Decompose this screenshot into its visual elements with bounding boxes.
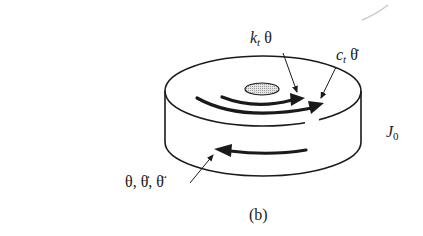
damping-label: ct θ̇ [336, 47, 358, 63]
stiffness-subscript: t [257, 36, 260, 48]
disk [165, 56, 361, 176]
motion-leader-line [190, 155, 213, 183]
damping-variable: θ̇ [350, 46, 358, 63]
scan-artifact [362, 5, 388, 20]
disk-bottom-edge [165, 142, 361, 176]
inertia-label: J0 [386, 124, 399, 140]
figure-caption: (b) [249, 207, 268, 223]
stiffness-leader-line [283, 53, 297, 92]
hub-shaft [245, 83, 279, 95]
torsional-disk-diagram [0, 0, 423, 236]
damping-leader-line [321, 67, 336, 98]
motion-arrow [214, 144, 306, 157]
damping-subscript: t [343, 53, 346, 65]
inertia-subscript: 0 [393, 130, 399, 142]
motion-label: θ, θ̇, θ̈ [125, 174, 164, 190]
stiffness-variable: θ [264, 29, 272, 46]
stiffness-label: kt θ [250, 30, 272, 46]
damping-torque-arrow [197, 98, 324, 114]
